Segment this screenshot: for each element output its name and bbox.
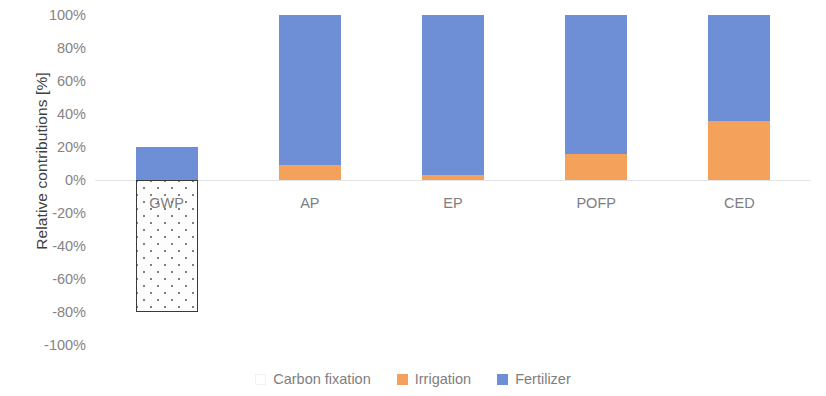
- bar-group: [565, 15, 627, 345]
- legend-swatch-carbon-fixation: [255, 374, 266, 385]
- legend-item[interactable]: Fertilizer: [497, 371, 571, 387]
- bar-segment-irrigation: [422, 175, 484, 180]
- bar-group: [708, 15, 770, 345]
- legend-item-label: Fertilizer: [515, 371, 571, 387]
- bar-group: [422, 15, 484, 345]
- y-axis-tick-label: 20%: [16, 139, 86, 155]
- y-axis-tick-label: -40%: [16, 238, 86, 254]
- legend-item-label: Irrigation: [415, 371, 471, 387]
- legend-item[interactable]: Carbon fixation: [255, 371, 371, 387]
- plot-area: [95, 15, 811, 345]
- y-axis-tick-label: 40%: [16, 106, 86, 122]
- bar-segment-fertilizer: [708, 15, 770, 121]
- bar-segment-fertilizer: [136, 147, 198, 180]
- bar-segment-irrigation: [565, 154, 627, 180]
- x-axis-category-labels: GWPAPEPPOFPCED: [95, 195, 811, 217]
- legend-item[interactable]: Irrigation: [397, 371, 471, 387]
- x-axis-category-label: POFP: [576, 195, 615, 211]
- x-axis-category-label: AP: [300, 195, 319, 211]
- bar-segment-fertilizer: [565, 15, 627, 154]
- y-axis-tick-label: -60%: [16, 271, 86, 287]
- y-axis-tick-label: 100%: [16, 7, 86, 23]
- bar-series-container: [95, 15, 811, 345]
- y-axis-tick-labels: 100%80%60%40%20%0%-20%-40%-60%-80%-100%: [12, 15, 86, 345]
- y-axis-tick-label: -100%: [16, 337, 86, 353]
- y-axis-tick-label: 60%: [16, 73, 86, 89]
- bar-segment-irrigation: [279, 165, 341, 180]
- y-axis-tick-label: 80%: [16, 40, 86, 56]
- y-axis-tick-label: -20%: [16, 205, 86, 221]
- legend-swatch-irrigation: [397, 374, 408, 385]
- bar-segment-irrigation: [708, 121, 770, 180]
- y-axis-tick-label: 0%: [16, 172, 86, 188]
- bar-group: [279, 15, 341, 345]
- x-axis-category-label: GWP: [149, 195, 184, 211]
- legend-item-label: Carbon fixation: [273, 371, 371, 387]
- y-axis-tick-label: -80%: [16, 304, 86, 320]
- chart-legend: Carbon fixationIrrigationFertilizer: [0, 371, 826, 387]
- relative-contributions-stacked-bar-chart: Relative contributions [%] 100%80%60%40%…: [0, 0, 826, 396]
- legend-swatch-fertilizer: [497, 374, 508, 385]
- bar-segment-fertilizer: [279, 15, 341, 165]
- x-axis-category-label: EP: [443, 195, 462, 211]
- bar-group: [136, 15, 198, 345]
- bar-segment-fertilizer: [422, 15, 484, 175]
- x-axis-category-label: CED: [724, 195, 755, 211]
